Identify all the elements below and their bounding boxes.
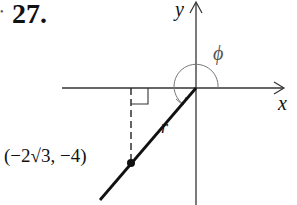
right-angle-marker (131, 88, 148, 104)
problem-number: 27. (12, 0, 47, 30)
x-axis-label: x (278, 92, 287, 115)
point-label: (−2√3, −4) (4, 145, 87, 167)
polar-coordinate-diagram: • 27. y x ϕ r (−2√3, −4) (0, 0, 297, 205)
angle-label: ϕ (213, 42, 223, 65)
diagram-canvas (0, 0, 297, 205)
ray-r (100, 88, 196, 200)
ray-label: r (161, 117, 168, 138)
y-axis (190, 2, 202, 205)
x-axis (62, 82, 284, 94)
y-axis-label: y (175, 0, 184, 21)
point-marker (127, 159, 135, 167)
bullet-marker: • (0, 6, 4, 17)
